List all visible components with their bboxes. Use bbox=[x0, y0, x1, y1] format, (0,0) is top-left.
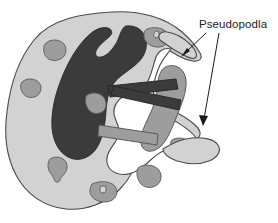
label-pseudopodia: Pseudopodla bbox=[199, 18, 268, 30]
granule-3 bbox=[85, 93, 106, 114]
granule-1 bbox=[44, 40, 66, 61]
figure-root: Pseudopodla bbox=[0, 0, 278, 223]
granule-2 bbox=[21, 79, 41, 98]
granule-7 bbox=[137, 165, 161, 187]
phagocyte-diagram: Pseudopodla bbox=[0, 0, 278, 223]
